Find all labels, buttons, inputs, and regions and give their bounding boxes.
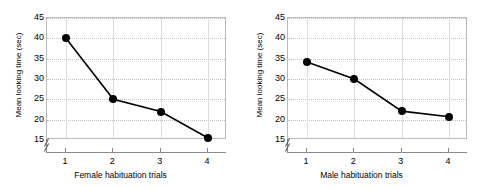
y-axis-tick-label: 25 — [275, 94, 285, 103]
y-axis-tick-label: 35 — [34, 53, 44, 62]
x-axis-tick-mark — [353, 148, 354, 152]
x-axis-tick-label: 2 — [351, 157, 356, 166]
y-axis-tick-label: 30 — [34, 74, 44, 83]
x-axis-tick-mark — [65, 148, 66, 152]
x-axis-title: Male habituation trials — [241, 171, 482, 180]
x-axis-tick-mark — [160, 148, 161, 152]
x-axis-line — [287, 152, 467, 153]
plot-area — [287, 17, 467, 139]
figure-two-panel-line-charts: Mean looking time (sec) 15202530354045 F… — [0, 0, 483, 190]
x-axis-line — [46, 152, 226, 153]
y-axis-tick-label: 45 — [275, 13, 285, 22]
y-axis-tick-label: 25 — [34, 94, 44, 103]
series-line — [47, 18, 227, 140]
x-axis-tick-label: 4 — [205, 157, 210, 166]
data-point-marker — [157, 108, 165, 116]
y-axis-tick-label: 20 — [34, 114, 44, 123]
y-axis-title-text: Mean looking time (sec) — [256, 33, 264, 118]
y-axis-tick-label: 40 — [275, 33, 285, 42]
plot-area — [46, 17, 226, 139]
data-point-marker — [109, 95, 117, 103]
y-axis-tick-label: 45 — [34, 13, 44, 22]
data-point-marker — [62, 34, 70, 42]
x-axis-tick-label: 1 — [62, 157, 67, 166]
data-point-marker — [303, 58, 311, 66]
y-axis-break-icon — [41, 138, 55, 152]
y-axis-break-icon — [282, 138, 296, 152]
x-axis-tick-label: 3 — [157, 157, 162, 166]
y-axis-tick-label: 40 — [34, 33, 44, 42]
x-axis-tick-mark — [448, 148, 449, 152]
series-line — [288, 18, 468, 140]
y-axis-title-text: Mean looking time (sec) — [15, 33, 23, 118]
chart-panel-female: Mean looking time (sec) 15202530354045 F… — [0, 0, 241, 190]
data-point-marker — [445, 113, 453, 121]
data-point-marker — [350, 75, 358, 83]
x-axis-tick-mark — [306, 148, 307, 152]
x-axis-tick-mark — [207, 148, 208, 152]
y-axis-tick-label: 30 — [275, 74, 285, 83]
x-axis-tick-mark — [401, 148, 402, 152]
x-axis-tick-label: 2 — [110, 157, 115, 166]
chart-panel-male: Mean looking time (sec) 15202530354045 M… — [241, 0, 482, 190]
x-axis-tick-label: 4 — [446, 157, 451, 166]
x-axis-title: Female habituation trials — [0, 171, 241, 180]
data-point-marker — [204, 134, 212, 142]
x-axis-tick-label: 1 — [303, 157, 308, 166]
data-point-marker — [398, 107, 406, 115]
y-axis-tick-label: 20 — [275, 114, 285, 123]
y-axis-tick-label: 35 — [275, 53, 285, 62]
x-axis-tick-label: 3 — [398, 157, 403, 166]
y-axis-tick-labels: 15202530354045 — [24, 0, 44, 190]
x-axis-tick-mark — [112, 148, 113, 152]
y-axis-tick-labels: 15202530354045 — [265, 0, 285, 190]
